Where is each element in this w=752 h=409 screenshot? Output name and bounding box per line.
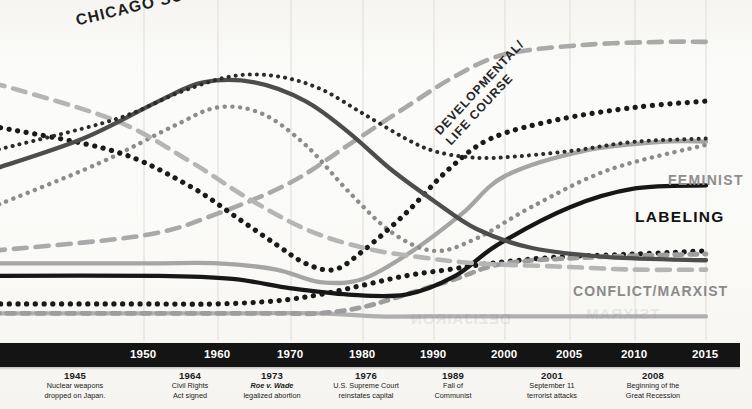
axis-tick-1960: 1960 — [204, 348, 230, 360]
axis-tick-2005: 2005 — [556, 348, 582, 360]
axis-tick-1990: 1990 — [420, 348, 446, 360]
event-note-1964: 1964Civil RightsAct signed — [147, 371, 233, 400]
axis-tick-2000: 2000 — [491, 348, 517, 360]
event-note-year: 1945 — [32, 371, 118, 380]
year-axis-bar: 195019601970198019902000200520102015 — [0, 343, 740, 367]
event-note-line: legalized abortion — [229, 391, 315, 400]
event-note-line: Roe v. Wade — [229, 381, 315, 390]
event-note-year: 1976 — [323, 371, 409, 380]
event-note-line: September 11 — [509, 381, 595, 390]
event-note-line: dropped on Japan. — [32, 391, 118, 400]
event-note-1989: 1989Fall ofCommunist — [410, 371, 496, 400]
event-note-line: Beginning of the — [610, 381, 696, 390]
series-label-labeling: LABELING — [635, 208, 725, 226]
event-note-line: Act signed — [147, 391, 233, 400]
event-note-1976: 1976U.S. Supreme Courtreinstates capital — [323, 371, 409, 400]
axis-tick-1950: 1950 — [130, 348, 156, 360]
axis-tick-1980: 1980 — [349, 348, 375, 360]
event-note-line: terrorist attacks — [509, 391, 595, 400]
event-note-line: Nuclear weapons — [32, 381, 118, 390]
event-note-year: 1964 — [147, 371, 233, 380]
event-note-year: 1973 — [229, 371, 315, 380]
event-note-1973: 1973Roe v. Wadelegalized abortion — [229, 371, 315, 400]
axis-tick-2015: 2015 — [692, 348, 718, 360]
event-note-line: reinstates capital — [323, 391, 409, 400]
series-line-unlabeled-darkgray-arch — [0, 80, 706, 260]
event-note-line: Fall of — [410, 381, 496, 390]
series-line-feminist — [0, 141, 706, 283]
event-note-line: U.S. Supreme Court — [323, 381, 409, 390]
event-note-line: Civil Rights — [147, 381, 233, 390]
event-note-year: 1989 — [410, 371, 496, 380]
event-note-1945: 1945Nuclear weaponsdropped on Japan. — [32, 371, 118, 400]
event-note-year: 2008 — [610, 371, 696, 380]
axis-tick-1970: 1970 — [277, 348, 303, 360]
event-note-2001: 2001September 11terrorist attacks — [509, 371, 595, 400]
event-note-year: 2001 — [509, 371, 595, 380]
event-notes-row: 1945Nuclear weaponsdropped on Japan.1964… — [0, 371, 752, 409]
series-label-conflict-marxist: CONFLICT/MARXIST — [573, 283, 728, 299]
event-note-2008: 2008Beginning of theGreat Recession — [610, 371, 696, 400]
series-label-feminist: FEMINIST — [668, 172, 744, 188]
event-note-line: Communist — [410, 391, 496, 400]
timeline-chart-page: DEZIJAIRON TSIXRAM CHICAGO SCHOOL DEVELO… — [0, 0, 752, 409]
axis-tick-2010: 2010 — [621, 348, 647, 360]
event-note-line: Great Recession — [610, 391, 696, 400]
